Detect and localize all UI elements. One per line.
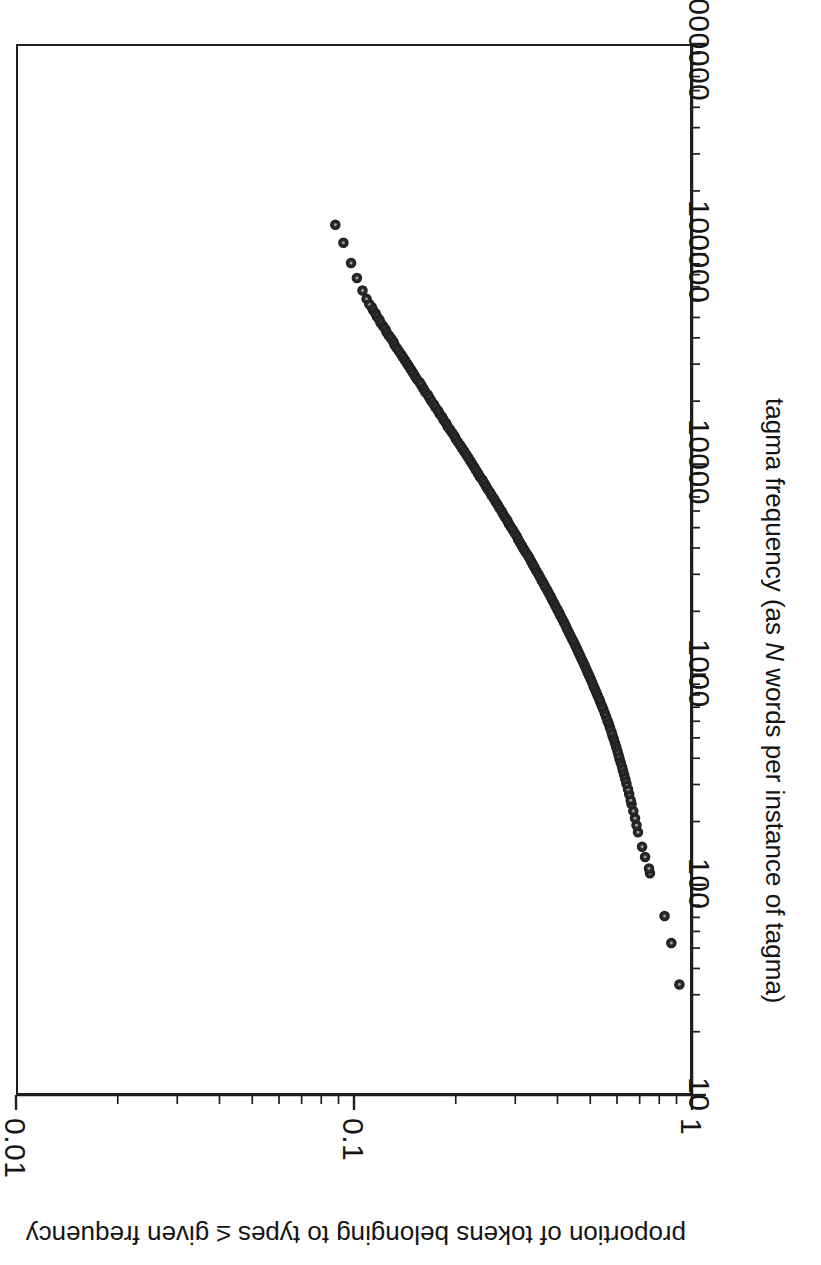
data-point [358,286,367,295]
figure-scatter-plot: 101001000100001000001000000 0.010.11 tag… [0,0,821,1265]
plot-area [16,44,692,1095]
y-axis-title: proportion of tokens belonging to types … [26,1219,686,1250]
data-point [352,274,361,283]
data-point [660,912,669,921]
x-axis-title-italic-n: N [760,642,790,661]
y-axis-ticks [12,1092,698,1116]
x-axis-title: tagma frequency (as N words per instance… [759,398,790,1004]
data-point [339,238,348,247]
data-points-canvas [18,46,690,1093]
x-axis-tick-label: 1000000 [682,0,716,101]
x-axis-tick-label: 1000 [682,639,716,708]
data-point [675,980,684,989]
data-point [638,842,647,851]
x-axis-tick-label: 100000 [682,200,716,303]
data-point [347,258,356,267]
x-axis-ticks [690,40,716,1100]
data-point [362,294,371,303]
y-axis-tick-label: 0.01 [0,1118,32,1178]
y-axis-tick-label: 0.1 [336,1118,370,1161]
data-point [331,220,340,229]
x-axis-tick-label: 100 [682,858,716,910]
data-point [641,853,650,862]
x-axis-title-prefix: tagma frequency (as [760,398,790,642]
x-axis-tick-label: 10000 [682,419,716,505]
y-axis-tick-label: 1 [674,1118,708,1135]
data-point [645,864,654,873]
x-axis-title-suffix: words per instance of tagma) [760,661,790,1004]
x-axis-tick-label: 10 [682,1077,716,1111]
data-point [667,939,676,948]
